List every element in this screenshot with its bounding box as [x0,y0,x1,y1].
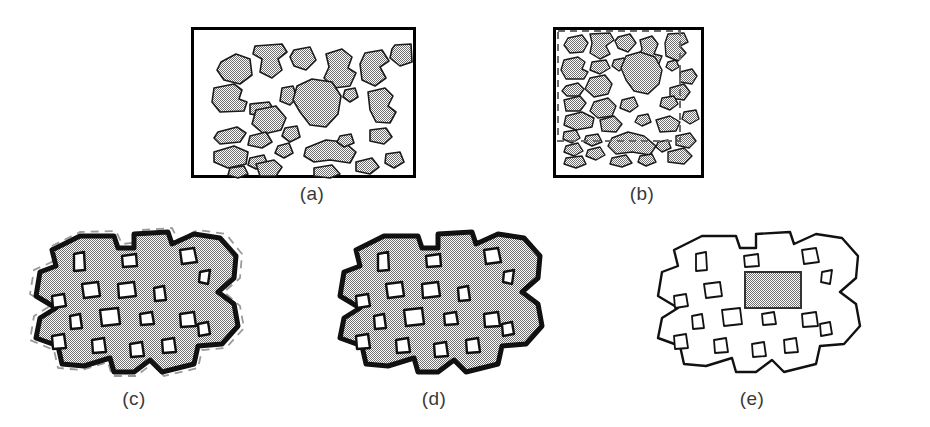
caption-d: (d) [404,388,464,410]
caption-b: (b) [612,183,672,205]
panel-d [326,226,562,384]
caption-a: (a) [282,183,342,205]
panel-a [190,26,418,180]
structuring-element [745,272,801,308]
panel-e [644,226,880,384]
caption-e: (e) [722,388,782,410]
morphology-figure: (a) [0,0,930,427]
panel-c [22,226,258,384]
panel-b [552,26,706,180]
caption-c: (c) [104,388,164,410]
